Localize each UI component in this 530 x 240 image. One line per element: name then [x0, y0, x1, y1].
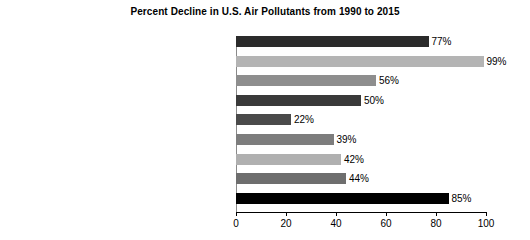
bar-row: Carbon monoxide (CO) 8-hour77% — [0, 36, 530, 47]
axis-tick-label: 100 — [466, 218, 506, 230]
bar — [236, 36, 429, 47]
bar — [236, 56, 484, 67]
bar-value-label: 42% — [344, 154, 364, 165]
bar-value-label: 50% — [364, 95, 384, 106]
x-axis-line — [236, 212, 487, 213]
bar-row: Lead (Pb) 3-month average99% — [0, 56, 530, 67]
axis-tick — [286, 212, 287, 216]
axis-tick — [236, 212, 237, 216]
bar-row: Nitrogen dioxide (NO2) annual56% — [0, 75, 530, 86]
bar — [236, 173, 346, 184]
bar-value-label: 22% — [294, 114, 314, 125]
axis-tick-label: 80 — [416, 218, 456, 230]
bar — [236, 75, 376, 86]
axis-tick — [386, 212, 387, 216]
bar — [236, 134, 334, 145]
axis-tick — [486, 212, 487, 216]
bar-value-label: 39% — [337, 134, 357, 145]
axis-tick-label: 40 — [316, 218, 356, 230]
axis-tick-label: 0 — [216, 218, 256, 230]
bar-row: Ozone (O3) 8-hour22% — [0, 114, 530, 125]
axis-tick-label: 60 — [366, 218, 406, 230]
bar — [236, 114, 291, 125]
bar — [236, 95, 361, 106]
axis-tick — [436, 212, 437, 216]
axis-tick — [336, 212, 337, 216]
bar-row: Sulfur dioxide (SO2) 1-hour85% — [0, 193, 530, 204]
bar-value-label: 77% — [432, 36, 452, 47]
bar — [236, 154, 341, 165]
bar-row: Particulate matter 2.5 microns (PM2.5) 2… — [0, 173, 530, 184]
bar-row: Particulate matter 10 microns (PM10) 24-… — [0, 134, 530, 145]
bar-value-label: 99% — [487, 56, 507, 67]
chart-title: Percent Decline in U.S. Air Pollutants f… — [0, 6, 530, 18]
bar-row: Nitrogen dioxide (NO2) 1-hour50% — [0, 95, 530, 106]
bar-value-label: 56% — [379, 75, 399, 86]
bar-row: Particulate matter 2.5 microns (PM2.5) a… — [0, 154, 530, 165]
bar-value-label: 85% — [452, 193, 472, 204]
axis-tick-label: 20 — [266, 218, 306, 230]
bar-value-label: 44% — [349, 173, 369, 184]
bar-chart: Percent Decline in U.S. Air Pollutants f… — [0, 0, 530, 240]
bar — [236, 193, 449, 204]
